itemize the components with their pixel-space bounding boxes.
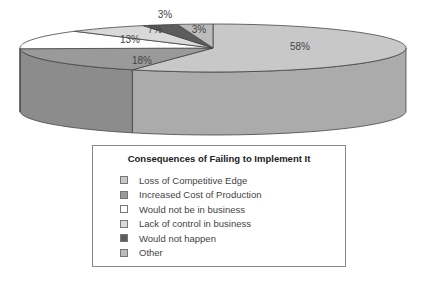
- legend-label: Would not happen: [139, 233, 216, 244]
- legend-swatch: [120, 249, 128, 257]
- legend-title: Consequences of Failing to Implement It: [93, 153, 345, 164]
- legend-item-would-not-happen: Would not happen: [120, 231, 262, 246]
- legend-swatch: [120, 205, 128, 213]
- legend-label: Would not be in business: [139, 204, 245, 215]
- legend-item-other: Other: [120, 246, 262, 261]
- legend-swatch: [120, 234, 128, 242]
- legend-label: Lack of control in business: [139, 218, 251, 229]
- pie-label-2: 13%: [120, 34, 140, 45]
- legend-label: Other: [139, 247, 163, 258]
- legend-item-increased-cost-of-production: Increased Cost of Production: [120, 188, 262, 203]
- legend-items: Loss of Competitive Edge Increased Cost …: [120, 173, 262, 260]
- pie-label-4: 3%: [158, 9, 173, 20]
- legend-label: Loss of Competitive Edge: [139, 175, 247, 186]
- legend-swatch: [120, 191, 128, 199]
- legend-item-loss-of-competitive-edge: Loss of Competitive Edge: [120, 173, 262, 188]
- legend-label: Increased Cost of Production: [139, 189, 262, 200]
- pie-chart: 58%18%13%7%3%3%: [0, 0, 424, 145]
- legend-swatch: [120, 220, 128, 228]
- legend-item-lack-of-control: Lack of control in business: [120, 217, 262, 232]
- pie-label-0: 58%: [290, 41, 310, 52]
- pie-label-1: 18%: [132, 55, 152, 66]
- legend-swatch: [120, 176, 128, 184]
- pie-top: [20, 24, 406, 72]
- pie-label-3: 7%: [148, 24, 163, 35]
- pie-label-5: 3%: [192, 24, 207, 35]
- legend-item-would-not-be-in-business: Would not be in business: [120, 202, 262, 217]
- chart-legend: Consequences of Failing to Implement It …: [92, 145, 346, 267]
